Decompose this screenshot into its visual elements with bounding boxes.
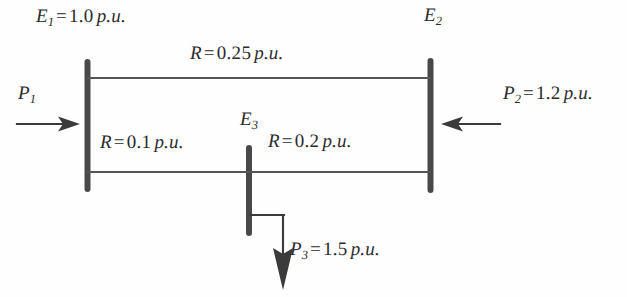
branch-lower-right-equals: =	[280, 131, 295, 152]
bus1-value: 1.0	[69, 6, 94, 27]
branch-lower-left-value: 0.1	[127, 132, 152, 153]
bus-bar-3	[246, 145, 252, 236]
injection-p1-subscript: 1	[30, 92, 36, 106]
bus3-subscript: 3	[252, 118, 258, 132]
injection-p2-unit: p.u.	[561, 83, 593, 104]
power-system-diagram: E1=1.0p.u. E2 E3 R=0.25p.u. R=0.1p.u. R=…	[0, 0, 627, 297]
load-p3-unit: p.u.	[348, 239, 380, 260]
branch-lower-left-resistance-label: R=0.1p.u.	[100, 133, 184, 152]
branch-lower-right-symbol: R	[268, 131, 280, 152]
branch-lower-left-unit: p.u.	[151, 132, 183, 153]
branch-lower-right-unit: p.u.	[319, 131, 351, 152]
branch-top-symbol: R	[190, 43, 202, 64]
branch-lower-right-value: 0.2	[295, 131, 320, 152]
branch-top-resistance-label: R=0.25p.u.	[190, 44, 284, 63]
load-p3-label: P3=1.5p.u.	[290, 240, 380, 261]
load-p3-symbol: P	[290, 239, 302, 260]
bus2-subscript: 2	[436, 14, 442, 28]
bus1-voltage-label: E1=1.0p.u.	[36, 7, 126, 28]
bus2-symbol: E	[424, 5, 436, 26]
bus1-equals: =	[54, 6, 69, 27]
branch-top-unit: p.u.	[251, 43, 283, 64]
bus1-symbol: E	[36, 6, 48, 27]
injection-p2-symbol: P	[503, 83, 515, 104]
injection-p1-symbol: P	[18, 83, 30, 104]
branch-lower-right-resistance-label: R=0.2p.u.	[268, 132, 352, 151]
injection-p2-value: 1.2	[536, 83, 561, 104]
bus2-voltage-label: E2	[424, 6, 442, 27]
branch-lower-left-equals: =	[112, 132, 127, 153]
bus1-unit: p.u.	[94, 6, 126, 27]
bus3-symbol: E	[240, 109, 252, 130]
branch-top-equals: =	[202, 43, 217, 64]
injection-p2-label: P2=1.2p.u.	[503, 84, 593, 105]
injection-p2-equals: =	[521, 83, 536, 104]
branch-top-value: 0.25	[217, 43, 251, 64]
bus3-voltage-label: E3	[240, 110, 258, 131]
load-p3-value: 1.5	[323, 239, 348, 260]
load-p3-equals: =	[308, 239, 323, 260]
injection-p1-label: P1	[18, 84, 36, 105]
branch-lower-left-symbol: R	[100, 132, 112, 153]
